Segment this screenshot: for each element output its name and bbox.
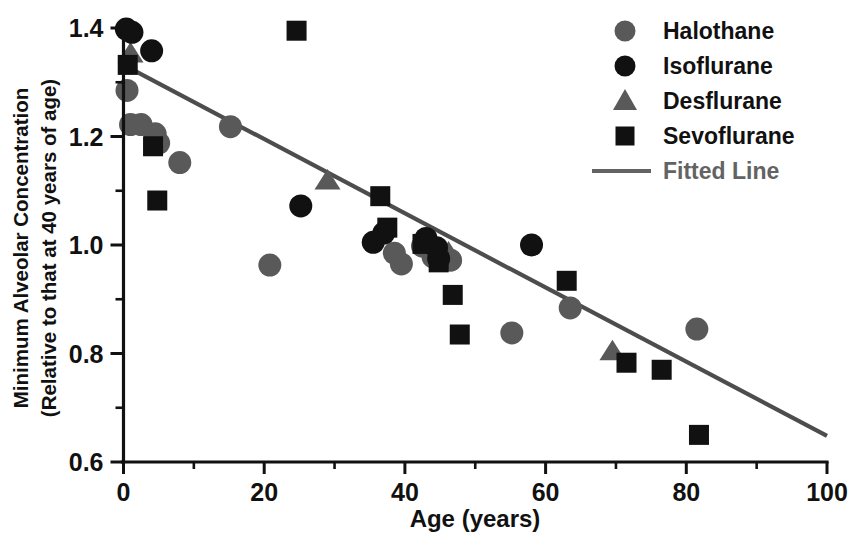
- legend-circle-icon: [615, 21, 636, 42]
- chart-figure: 0204060801000.60.81.01.21.4 Age (years) …: [0, 0, 864, 538]
- data-point-isoflurane: [520, 234, 543, 257]
- data-point-sevoflurane: [557, 271, 577, 291]
- data-point-sevoflurane: [443, 285, 463, 305]
- y-tick-label: 1.0: [69, 231, 104, 259]
- data-points-layer: [115, 18, 709, 445]
- x-tick-label: 0: [117, 478, 131, 506]
- y-tick-label: 1.2: [69, 123, 104, 151]
- legend-label: Fitted Line: [663, 158, 779, 184]
- series-sevoflurane: [118, 21, 709, 445]
- data-point-sevoflurane: [147, 191, 167, 211]
- data-point-isoflurane: [140, 39, 163, 62]
- data-point-halothane: [685, 318, 708, 341]
- y-axis-title-line1: Minimum Alveolar Concentration: [9, 88, 32, 408]
- x-tick-label: 80: [672, 478, 700, 506]
- data-point-sevoflurane: [412, 234, 432, 254]
- data-point-halothane: [559, 296, 582, 319]
- legend-label: Halothane: [663, 18, 774, 44]
- legend-item-sevoflurane[interactable]: Sevoflurane: [616, 123, 795, 149]
- x-tick-label: 40: [391, 478, 419, 506]
- data-point-halothane: [258, 254, 281, 277]
- series-halothane: [116, 79, 709, 344]
- legend-label: Isoflurane: [663, 53, 773, 79]
- data-point-halothane: [168, 151, 191, 174]
- data-point-sevoflurane: [652, 360, 672, 380]
- legend-item-fitted-line[interactable]: Fitted Line: [592, 158, 779, 184]
- data-point-halothane: [500, 321, 523, 344]
- y-tick-label: 1.4: [69, 14, 104, 42]
- data-point-sevoflurane: [118, 55, 138, 75]
- scatter-plot: 0204060801000.60.81.01.21.4 Age (years) …: [0, 0, 864, 538]
- legend-item-isoflurane[interactable]: Isoflurane: [615, 53, 773, 79]
- legend-item-halothane[interactable]: Halothane: [615, 18, 775, 44]
- x-tick-label: 60: [532, 478, 560, 506]
- data-point-sevoflurane: [143, 136, 163, 156]
- legend-triangle-icon: [613, 89, 637, 110]
- data-point-sevoflurane: [377, 218, 397, 238]
- legend-label: Sevoflurane: [663, 123, 795, 149]
- series-isoflurane: [115, 18, 543, 270]
- legend-circle-icon: [615, 56, 636, 77]
- data-point-sevoflurane: [370, 186, 390, 206]
- data-point-sevoflurane: [450, 325, 470, 345]
- legend-label: Desflurane: [663, 88, 782, 114]
- x-axis-title: Age (years): [410, 505, 541, 532]
- data-point-sevoflurane: [429, 252, 449, 272]
- legend-square-icon: [616, 127, 635, 146]
- data-point-halothane: [219, 115, 242, 138]
- data-point-halothane: [390, 252, 413, 275]
- y-axis-title-line2: (Relative to that at 40 years of age): [37, 79, 60, 417]
- data-point-sevoflurane: [689, 425, 709, 445]
- legend: HalothaneIsofluraneDesfluraneSevoflurane…: [592, 18, 795, 184]
- x-tick-label: 20: [250, 478, 278, 506]
- legend-item-desflurane[interactable]: Desflurane: [613, 88, 782, 114]
- y-tick-label: 0.6: [69, 448, 104, 476]
- y-tick-label: 0.8: [69, 340, 104, 368]
- data-point-sevoflurane: [287, 21, 307, 41]
- data-point-sevoflurane: [617, 353, 637, 373]
- x-tick-label: 100: [806, 478, 848, 506]
- x-axis-title-text: Age (years): [410, 505, 541, 532]
- y-axis-title: Minimum Alveolar Concentration (Relative…: [9, 79, 60, 417]
- data-point-isoflurane: [289, 194, 312, 217]
